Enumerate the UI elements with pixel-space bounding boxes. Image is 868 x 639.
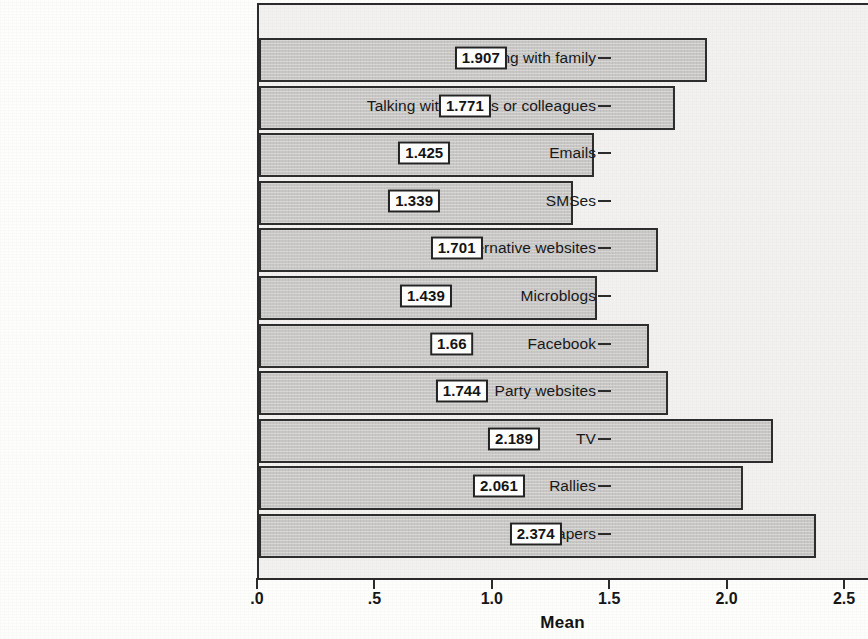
x-axis-tick-label: 1.0: [481, 590, 503, 608]
bar-value-label: 1.907: [455, 47, 507, 70]
x-axis-tick: [256, 578, 258, 589]
category-tick: [598, 295, 611, 297]
category-label: Rallies: [549, 477, 596, 495]
category-tick: [598, 152, 611, 154]
bar-value-label: 1.339: [388, 189, 440, 212]
bar-value-label: 1.771: [439, 94, 491, 117]
category-label: SMSes: [546, 192, 596, 210]
category-tick: [598, 105, 611, 107]
x-axis-tick-label: 1.5: [598, 590, 620, 608]
bar-value-label: 1.425: [398, 142, 450, 165]
category-label: Microblogs: [521, 287, 596, 305]
category-label: Facebook: [528, 335, 596, 353]
category-tick: [598, 343, 611, 345]
bar-value-label: 1.701: [431, 237, 483, 260]
category-tick: [598, 390, 611, 392]
category-label: Emails: [549, 144, 596, 162]
x-axis-tick-label: .0: [250, 590, 263, 608]
x-axis-tick-label: 2.0: [715, 590, 737, 608]
category-tick: [598, 533, 611, 535]
category-tick: [598, 485, 611, 487]
bar-value-label: 2.374: [510, 523, 562, 546]
x-axis-tick: [843, 578, 845, 589]
x-axis-tick: [491, 578, 493, 589]
bar-value-label: 2.061: [473, 475, 525, 498]
x-axis-tick: [373, 578, 375, 589]
bar-value-label: 1.66: [430, 332, 474, 355]
category-tick: [598, 57, 611, 59]
chart-page: 1.907Talking with family1.771Talking wit…: [0, 0, 868, 639]
bar-value-label: 1.744: [436, 380, 488, 403]
x-axis-tick: [608, 578, 610, 589]
x-axis-title: Mean: [257, 613, 868, 633]
category-tick: [598, 247, 611, 249]
x-axis-line: [257, 578, 868, 580]
x-axis-tick-label: 2.5: [833, 590, 855, 608]
category-tick: [598, 200, 611, 202]
category-label: Party websites: [495, 382, 597, 400]
x-axis-tick-label: .5: [368, 590, 381, 608]
bar-value-label: 2.189: [488, 427, 540, 450]
bar-value-label: 1.439: [400, 285, 452, 308]
category-label: TV: [576, 430, 596, 448]
category-tick: [598, 438, 611, 440]
x-axis-tick: [726, 578, 728, 589]
